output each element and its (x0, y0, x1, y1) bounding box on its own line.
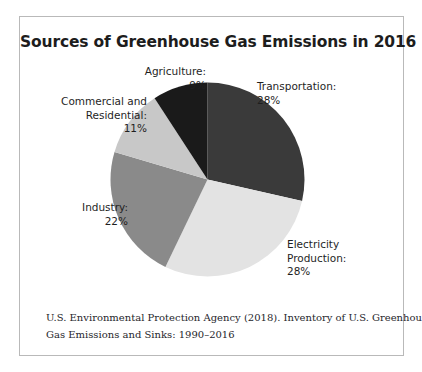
source-citation-line-2: Gas Emissions and Sinks: 1990–2016 (46, 326, 386, 343)
source-citation: U.S. Environmental Protection Agency (20… (46, 309, 386, 343)
pie-label-industry-value: 22% (20, 215, 128, 229)
pie-label-agriculture-value: 9% (96, 79, 206, 93)
pie-label-agriculture: Agriculture: 9% (96, 65, 206, 92)
pie-label-agriculture-name: Agriculture: (96, 65, 206, 79)
pie-label-transportation: Transportation: 28% (257, 80, 397, 107)
pie-label-transportation-name: Transportation: (257, 80, 397, 94)
pie-label-electricity-production-name-1: Electricity (287, 238, 405, 252)
pie-label-commercial-residential-name-1: Commercial and (20, 95, 147, 109)
pie-label-commercial-residential: Commercial and Residential: 11% (20, 95, 147, 136)
pie-label-transportation-value: 28% (257, 94, 397, 108)
pie-label-electricity-production-name-2: Production: (287, 252, 405, 266)
pie-label-commercial-residential-value: 11% (20, 122, 147, 136)
source-citation-line-1: U.S. Environmental Protection Agency (20… (46, 309, 386, 326)
figure-frame: Sources of Greenhouse Gas Emissions in 2… (19, 16, 404, 356)
pie-chart: Agriculture: 9% Commercial and Residenti… (20, 17, 405, 357)
pie-label-commercial-residential-name-2: Residential: (20, 109, 147, 123)
pie-label-electricity-production: Electricity Production: 28% (287, 238, 405, 279)
pie-label-industry: Industry: 22% (20, 201, 128, 228)
pie-label-electricity-production-value: 28% (287, 265, 405, 279)
pie-label-industry-name: Industry: (20, 201, 128, 215)
